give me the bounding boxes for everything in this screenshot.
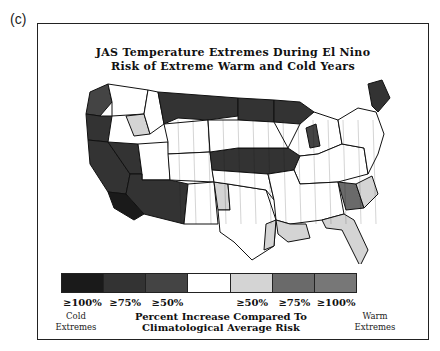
map-region-wyoming: [164, 120, 210, 154]
panel-label: (c): [10, 11, 26, 27]
legend-label-warm-5: ≥75%: [278, 297, 310, 308]
cold-caption-line1: Cold: [46, 311, 106, 322]
map-region-pacific-northwest-coast: [86, 84, 112, 116]
legend-warm-caption: Warm Extremes: [340, 311, 410, 333]
map-region-new-mexico: [184, 182, 218, 224]
legend-swatch-neutral-3: [188, 274, 230, 292]
legend-swatch-warm-6: [315, 274, 356, 292]
legend-label-cold-0: ≥100%: [63, 297, 102, 308]
map-region-maine: [368, 80, 390, 112]
warm-caption-line2: Extremes: [340, 322, 410, 333]
center-caption-line2: Climatological Average Risk: [121, 322, 321, 333]
legend-swatch-cold-2: [146, 274, 188, 292]
map-region-north-dakota: [238, 98, 274, 122]
cold-caption-line2: Extremes: [46, 322, 106, 333]
legend-center-caption: Percent Increase Compared To Climatologi…: [121, 311, 321, 333]
legend-label-cold-1: ≥75%: [109, 297, 141, 308]
legend-swatch-warm-5: [273, 274, 315, 292]
map-region-montana-north: [158, 92, 238, 124]
legend-cold-caption: Cold Extremes: [46, 311, 106, 333]
legend-label-warm-4: ≥50%: [236, 297, 268, 308]
legend-label-warm-6: ≥100%: [317, 297, 356, 308]
warm-caption-line1: Warm: [340, 311, 410, 322]
map-region-nebraska-iowa-band: [210, 148, 300, 174]
us-county-map: [38, 24, 430, 264]
figure-frame: JAS Temperature Extremes During El Nino …: [37, 23, 429, 340]
map-region-south-dakota: [208, 120, 288, 152]
map-region-washington-interior: [108, 84, 148, 116]
legend-label-cold-2: ≥50%: [152, 297, 184, 308]
legend-swatch-warm-4: [231, 274, 273, 292]
legend-color-bar: [61, 273, 357, 293]
map-region-texas-coast-warm: [264, 220, 276, 250]
map-region-colorado: [168, 152, 214, 182]
center-caption-line1: Percent Increase Compared To: [121, 311, 321, 322]
legend-swatch-cold-1: [104, 274, 146, 292]
map-region-oregon-south: [86, 114, 112, 142]
map-region-utah: [138, 142, 170, 180]
legend-swatch-cold-0: [62, 274, 104, 292]
